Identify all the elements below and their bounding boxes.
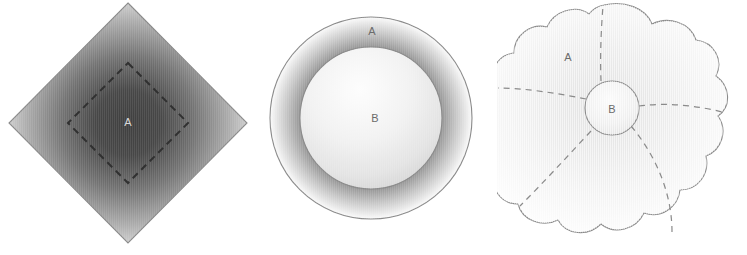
figure-annulus: A B: [250, 0, 500, 255]
region-label-a: A: [124, 116, 132, 128]
figure-lobed: A B: [497, 0, 747, 255]
region-label-a: A: [368, 25, 376, 37]
annulus-svg: A B: [250, 0, 500, 255]
diamond-svg: A: [0, 0, 250, 255]
region-label-b: B: [608, 103, 615, 115]
region-label-b: B: [371, 112, 378, 124]
region-label-a: A: [564, 51, 572, 63]
figure-panel: A: [0, 0, 747, 255]
figure-diamond: A: [0, 0, 250, 255]
lobed-svg: A B: [497, 0, 747, 255]
